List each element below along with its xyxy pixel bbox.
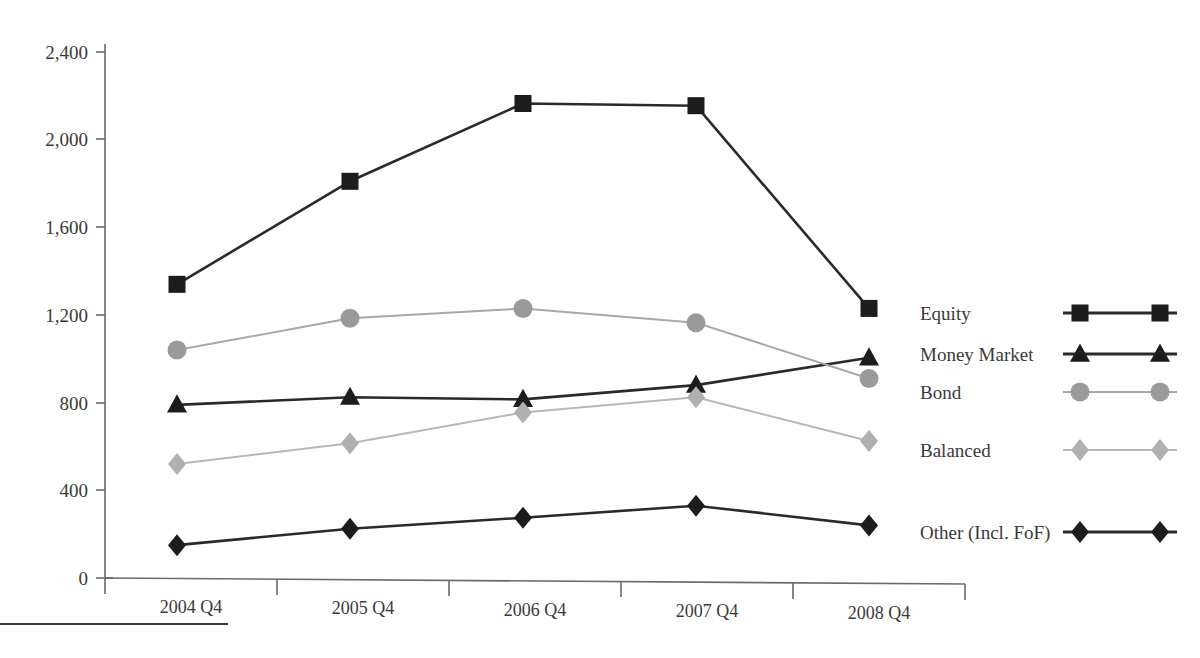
legend-key-marker (1071, 521, 1089, 543)
data-point-marker (342, 173, 359, 190)
y-tick-label-2400: 2,400 (45, 42, 88, 63)
chart-container: 2,400 2,000 1,600 1,200 800 400 0 2004 (0, 0, 1200, 658)
y-axis: 2,400 2,000 1,600 1,200 800 400 0 (45, 42, 113, 589)
legend-item-label: Equity (920, 303, 971, 324)
y-tick-label-800: 800 (60, 393, 89, 414)
data-point-marker (687, 495, 705, 517)
data-point-marker (168, 341, 187, 360)
data-point-marker (515, 95, 532, 112)
x-axis-tick-labels: 2004 Q4 2005 Q4 2006 Q4 2007 Q4 2008 Q4 (160, 597, 911, 623)
legend-key-marker (1070, 343, 1090, 361)
legend-key-marker (1150, 343, 1170, 361)
x-tick-label-2006-q4: 2006 Q4 (504, 600, 567, 620)
data-point-marker (340, 387, 360, 405)
data-point-marker (168, 453, 186, 475)
data-point-marker (688, 97, 705, 114)
data-point-marker (514, 299, 533, 318)
line-chart: 2,400 2,000 1,600 1,200 800 400 0 2004 (0, 0, 1200, 658)
series-line (177, 104, 869, 309)
footnote-separator-rule (0, 623, 228, 625)
data-point-marker (341, 518, 359, 540)
x-tick-label-2005-q4: 2005 Q4 (332, 598, 395, 618)
legend-item-other-incl-fof[interactable]: Other (Incl. FoF) (920, 521, 1177, 544)
legend-key-marker (1071, 383, 1090, 402)
data-point-marker (341, 432, 359, 454)
x-tick-label-2007-q4: 2007 Q4 (676, 601, 739, 621)
data-point-marker (860, 369, 879, 388)
legend-item-equity[interactable]: Equity (920, 303, 1177, 324)
chart-legend: EquityMoney MarketBondBalancedOther (Inc… (920, 303, 1177, 544)
data-point-marker (860, 430, 878, 452)
legend-item-label: Other (Incl. FoF) (920, 522, 1050, 544)
data-point-marker (687, 313, 706, 332)
legend-key-marker (1152, 305, 1169, 322)
y-tick-label-2000: 2,000 (45, 129, 88, 150)
legend-item-bond[interactable]: Bond (920, 382, 1177, 403)
legend-key-marker (1071, 439, 1089, 461)
legend-item-label: Balanced (920, 440, 991, 461)
x-axis-line (105, 578, 965, 584)
legend-key-marker (1072, 305, 1089, 322)
data-point-marker (341, 309, 360, 328)
y-tick-label-1600: 1,600 (45, 217, 88, 238)
series-line (177, 308, 869, 378)
x-axis: 2004 Q4 2005 Q4 2006 Q4 2007 Q4 2008 Q4 (105, 578, 965, 623)
data-point-marker (861, 300, 878, 317)
data-point-marker (860, 514, 878, 536)
y-axis-tick-labels: 2,400 2,000 1,600 1,200 800 400 0 (45, 42, 88, 589)
y-tick-label-400: 400 (60, 480, 89, 501)
data-point-marker (169, 276, 186, 293)
series-bond (168, 299, 879, 388)
legend-item-money-market[interactable]: Money Market (920, 343, 1177, 365)
data-point-marker (168, 534, 186, 556)
series-layer (167, 95, 879, 556)
data-point-marker (514, 507, 532, 529)
legend-item-label: Money Market (920, 344, 1034, 365)
legend-key-marker (1151, 383, 1170, 402)
x-tick-label-2004-q4: 2004 Q4 (160, 597, 223, 617)
legend-item-label: Bond (920, 382, 962, 403)
legend-item-balanced[interactable]: Balanced (920, 439, 1177, 461)
series-other-incl-fof (168, 495, 878, 556)
y-tick-label-0: 0 (79, 568, 89, 589)
x-tick-label-2008-q4: 2008 Q4 (848, 603, 911, 623)
data-point-marker (859, 347, 879, 365)
series-equity (169, 95, 878, 317)
legend-key-marker (1151, 439, 1169, 461)
legend-key-marker (1151, 521, 1169, 543)
y-tick-label-1200: 1,200 (45, 305, 88, 326)
